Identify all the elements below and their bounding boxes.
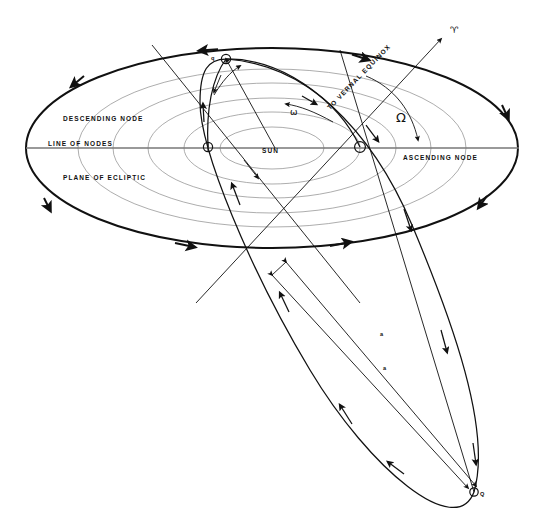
- line-of-nodes-label: LINE OF NODES: [48, 140, 113, 147]
- ascending-node-label: ASCENDING NODE: [403, 154, 478, 161]
- descending-node-label: DESCENDING NODE: [63, 115, 143, 122]
- semi-major-axis-label-2: a: [383, 365, 387, 371]
- comet-arrow-upper-right: [366, 125, 378, 141]
- ecliptic-arrow-left-low: [44, 198, 50, 210]
- comet-arrow-right-2: [441, 330, 447, 352]
- plane-of-ecliptic-label: PLANE OF ECLIPTIC: [63, 174, 146, 181]
- omega-capital-icon: Ω: [396, 110, 406, 125]
- orbit-projection-upper: [226, 59, 360, 147]
- omega-small-icon: ω: [290, 107, 298, 117]
- aphelion-label: Q: [480, 491, 485, 497]
- point-markers-group: [203, 54, 478, 496]
- orbit-diagram-canvas: DESCENDING NODE LINE OF NODES PLANE OF E…: [0, 0, 543, 530]
- orbital-elements-diagram: DESCENDING NODE LINE OF NODES PLANE OF E…: [0, 0, 543, 530]
- comet-arrow-lower-left-2: [280, 293, 289, 312]
- inclination-ray-arrow-mid: [244, 160, 258, 178]
- ecliptic-arrow-bottom: [175, 243, 194, 247]
- ecliptic-arrow-top: [200, 49, 218, 50]
- comet-arrow-left-upper: [203, 104, 204, 122]
- inclination-ray-left: [152, 45, 360, 303]
- semi-major-axis-line-1: [272, 275, 468, 488]
- aphelion-sight-ray: [340, 50, 474, 492]
- comet-arrow-lower-left-1: [340, 405, 352, 424]
- sun-to-perihelion-line: [226, 59, 275, 148]
- semi-major-axis-group: [272, 262, 476, 488]
- aries-icon: ♈: [450, 25, 459, 35]
- semi-major-axis-label-1: a: [380, 331, 384, 337]
- perihelion-label: q: [211, 55, 216, 61]
- semi-major-axis-line-2: [286, 262, 476, 486]
- comet-arrow-left-mid: [232, 184, 240, 205]
- comet-arrow-right-3: [473, 443, 476, 464]
- sun-label: SUN: [262, 147, 279, 154]
- projection-arrow-1: [302, 96, 316, 104]
- semi-major-axis-tie: [272, 262, 286, 275]
